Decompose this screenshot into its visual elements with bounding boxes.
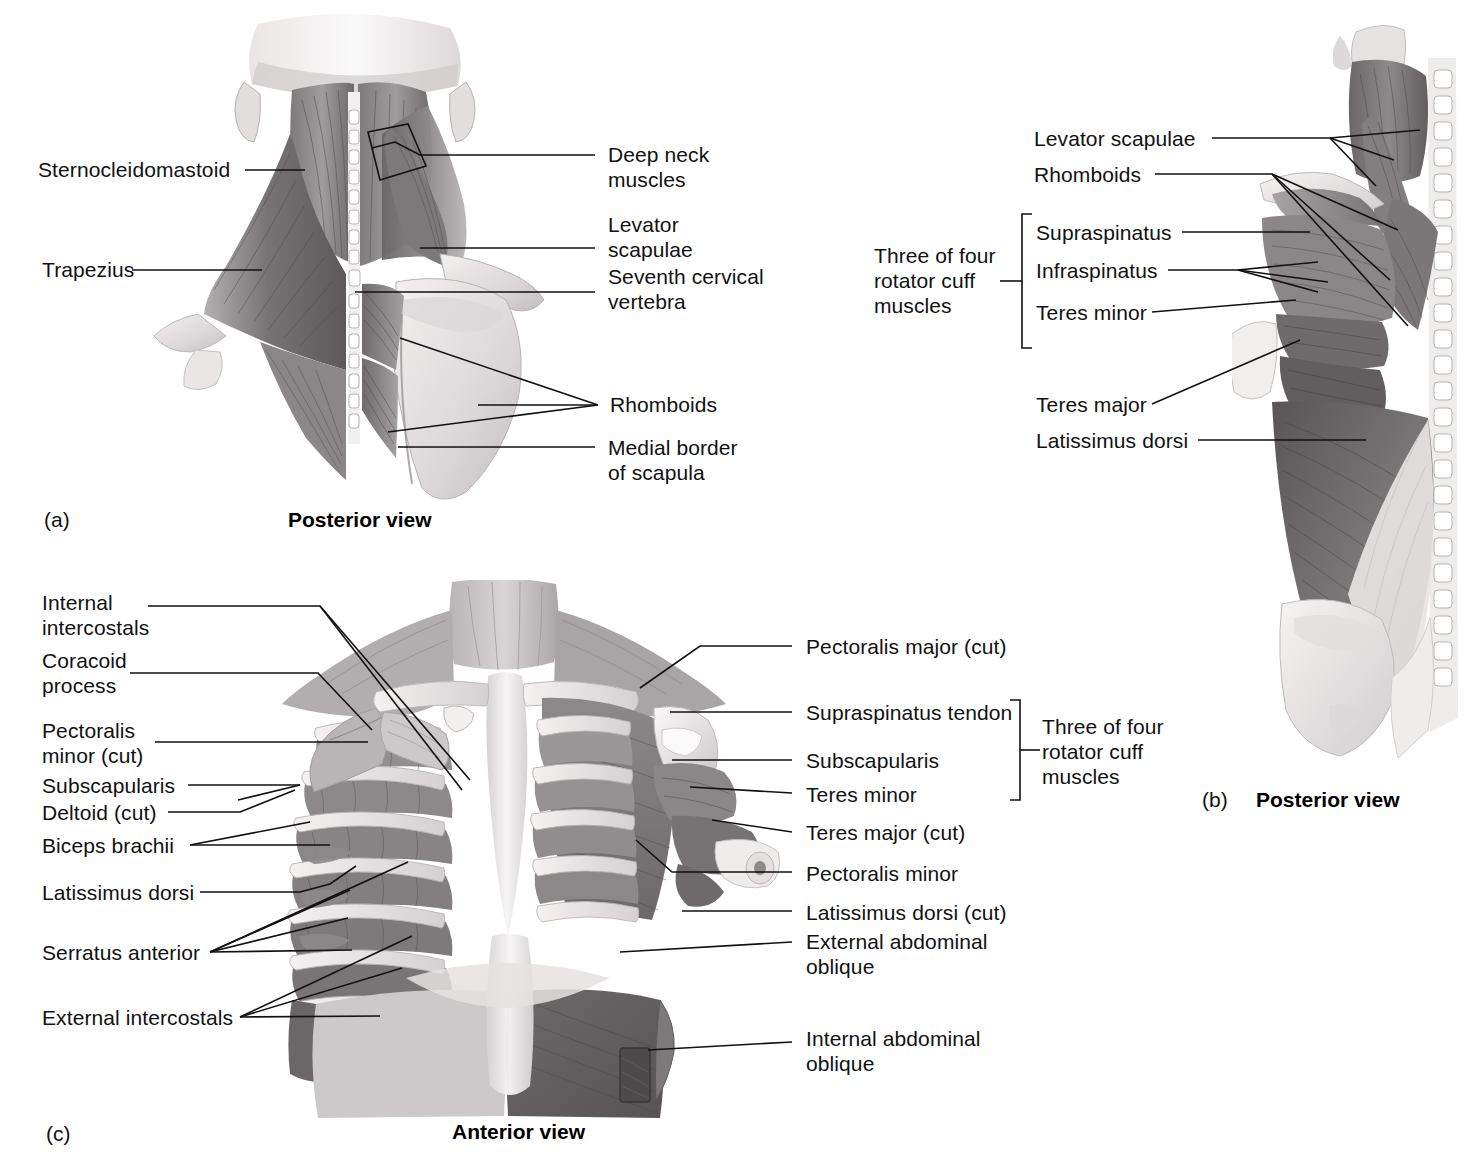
label-trapezius: Trapezius bbox=[42, 257, 134, 282]
label-external-abdominal-oblique: External abdominal oblique bbox=[806, 929, 988, 979]
panel-b-caption: Posterior view bbox=[1256, 788, 1400, 812]
bracket-c-rotator-cuff bbox=[1010, 700, 1040, 800]
label-teres-minor-c-right: Teres minor bbox=[806, 782, 917, 807]
label-latissimus-dorsi-cut: Latissimus dorsi (cut) bbox=[806, 900, 1007, 925]
panel-c-caption: Anterior view bbox=[452, 1120, 585, 1144]
panel-a-caption: Posterior view bbox=[288, 508, 432, 532]
label-supraspinatus-tendon: Supraspinatus tendon bbox=[806, 700, 1012, 725]
panel-c-illustration bbox=[256, 580, 796, 1120]
label-teres-minor-b: Teres minor bbox=[1036, 300, 1147, 325]
label-rotator-cuff-c: Three of four rotator cuff muscles bbox=[1042, 714, 1164, 789]
label-medial-border-of-scapula: Medial border of scapula bbox=[608, 435, 738, 485]
label-pectoralis-minor-cut: Pectoralis minor (cut) bbox=[42, 718, 143, 768]
label-serratus-anterior: Serratus anterior bbox=[42, 940, 200, 965]
label-levator-scapulae-b: Levator scapulae bbox=[1034, 126, 1196, 151]
anatomy-figure: Sternocleidomastoid Trapezius Deep neck … bbox=[0, 0, 1482, 1163]
label-deep-neck-muscles: Deep neck muscles bbox=[608, 142, 709, 192]
panel-b-id: (b) bbox=[1202, 788, 1228, 812]
label-pectoralis-minor-c-right: Pectoralis minor bbox=[806, 861, 958, 886]
label-sternocleidomastoid: Sternocleidomastoid bbox=[38, 157, 230, 182]
label-biceps-brachii: Biceps brachii bbox=[42, 833, 174, 858]
panel-c-id: (c) bbox=[46, 1122, 71, 1146]
label-teres-major-b: Teres major bbox=[1036, 392, 1147, 417]
label-subscapularis-c-right: Subscapularis bbox=[806, 748, 939, 773]
label-pectoralis-major-cut: Pectoralis major (cut) bbox=[806, 634, 1007, 659]
label-levator-scapulae-a: Levator scapulae bbox=[608, 212, 693, 262]
label-latissimus-dorsi-c-left: Latissimus dorsi bbox=[42, 880, 194, 905]
label-infraspinatus-b: Infraspinatus bbox=[1036, 258, 1158, 283]
label-latissimus-dorsi-b: Latissimus dorsi bbox=[1036, 428, 1188, 453]
panel-a-id: (a) bbox=[44, 508, 70, 532]
label-rhomboids-b: Rhomboids bbox=[1034, 162, 1141, 187]
label-internal-abdominal-oblique: Internal abdominal oblique bbox=[806, 1026, 981, 1076]
label-coracoid-process: Coracoid process bbox=[42, 648, 127, 698]
label-internal-intercostals: Internal intercostals bbox=[42, 590, 149, 640]
label-rhomboids-a: Rhomboids bbox=[610, 392, 717, 417]
bracket-b-rotator-cuff bbox=[1000, 214, 1032, 348]
label-teres-major-cut: Teres major (cut) bbox=[806, 820, 965, 845]
label-external-intercostals: External intercostals bbox=[42, 1005, 233, 1030]
label-seventh-cervical-vertebra: Seventh cervical vertebra bbox=[608, 264, 764, 314]
panel-a-illustration bbox=[140, 14, 570, 514]
label-supraspinatus-b: Supraspinatus bbox=[1036, 220, 1172, 245]
label-deltoid-cut: Deltoid (cut) bbox=[42, 800, 157, 825]
label-subscapularis-c-left: Subscapularis bbox=[42, 773, 175, 798]
label-rotator-cuff-b: Three of four rotator cuff muscles bbox=[874, 243, 996, 318]
panel-b-illustration bbox=[1232, 18, 1482, 778]
